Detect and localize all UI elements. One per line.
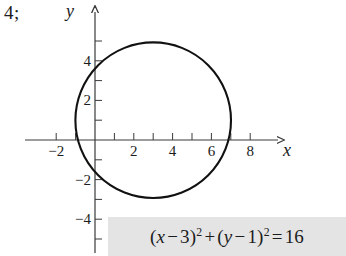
eq-equals-sign: = (270, 226, 285, 247)
y-axis-label: y (66, 1, 74, 22)
y-tick-label-4: 4 (84, 52, 92, 69)
y-tick-label-2: 2 (84, 92, 92, 109)
eq-k-value: 1 (247, 226, 257, 247)
eq-plus: + (202, 226, 217, 247)
x-tick-label-6: 6 (208, 143, 216, 160)
eq-minus-2: − (232, 226, 247, 247)
y-tick-label-neg4: −4 (75, 211, 91, 228)
x-axis-label: x (283, 140, 291, 161)
eq-exponent-2: 2 (264, 225, 270, 238)
x-tick-label-2: 2 (130, 143, 138, 160)
x-tick-label-neg2: −2 (48, 143, 64, 160)
eq-right-hand-side: 16 (285, 226, 304, 247)
circle-graph-figure: 4; (0, 0, 346, 256)
x-tick-label-4: 4 (169, 143, 177, 160)
equation-text: (x−3)2+(y−1)2=16 (150, 226, 304, 248)
equation-callout-box: (x−3)2+(y−1)2=16 (108, 217, 346, 256)
eq-variable-x: x (156, 226, 165, 247)
eq-minus-1: − (165, 226, 180, 247)
x-tick-label-8: 8 (246, 143, 254, 160)
eq-h-value: 3 (180, 226, 190, 247)
y-tick-label-neg2: −2 (75, 171, 91, 188)
